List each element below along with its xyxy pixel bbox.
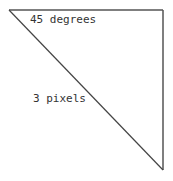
triangle-diagram <box>0 0 173 181</box>
angle-label: 45 degrees <box>30 14 96 26</box>
triangle-hypotenuse <box>9 10 163 170</box>
stroke-width-label: 3 pixels <box>33 93 86 105</box>
